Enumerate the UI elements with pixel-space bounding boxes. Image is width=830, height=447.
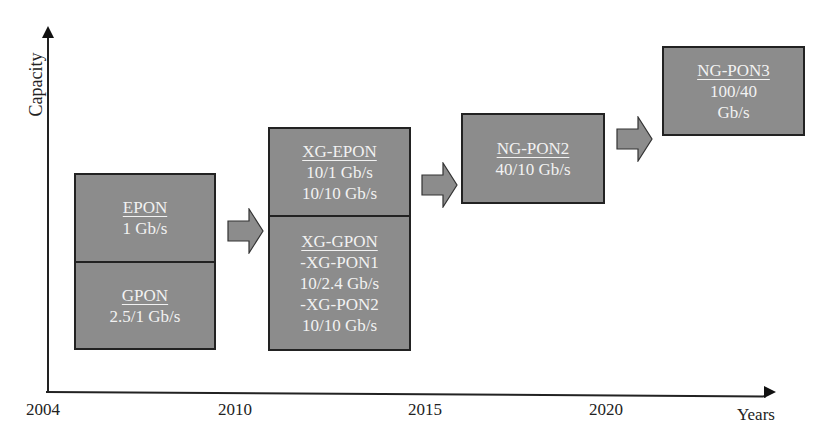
box-title: EPON — [123, 197, 167, 218]
box-line: -XG-PON2 — [300, 294, 378, 315]
box-gpon: GPON 2.5/1 Gb/s — [74, 261, 216, 350]
box-epon: EPON 1 Gb/s — [74, 173, 216, 263]
box-title: XG-GPON — [301, 231, 378, 252]
y-axis-arrowhead-icon — [42, 26, 54, 38]
box-line: 10/2.4 Gb/s — [300, 273, 379, 294]
box-title: NG-PON3 — [697, 60, 770, 81]
x-axis-arrowhead-icon — [764, 386, 776, 398]
y-axis — [47, 36, 49, 392]
box-title: NG-PON2 — [497, 138, 570, 159]
y-axis-label: Capacity — [26, 45, 47, 125]
box-line: 2.5/1 Gb/s — [110, 306, 181, 327]
box-xg-epon: XG-EPON 10/1 Gb/s 10/10 Gb/s — [268, 127, 411, 217]
arrow-right-icon — [421, 162, 459, 208]
box-line: 1 Gb/s — [123, 218, 168, 239]
x-tick-2010: 2010 — [218, 400, 252, 420]
box-line: 10/1 Gb/s — [306, 162, 373, 183]
box-line: 100/40 — [710, 81, 757, 102]
box-title: GPON — [122, 285, 168, 306]
box-xg-gpon: XG-GPON -XG-PON1 10/2.4 Gb/s -XG-PON2 10… — [268, 215, 411, 351]
box-line: 40/10 Gb/s — [495, 159, 570, 180]
x-axis — [46, 391, 766, 397]
arrow-right-icon — [616, 116, 654, 162]
box-line: 10/10 Gb/s — [302, 183, 377, 204]
box-line: 10/10 Gb/s — [302, 315, 377, 336]
arrow-right-icon — [227, 208, 265, 254]
x-axis-label: Years — [737, 405, 775, 425]
x-tick-2015: 2015 — [408, 400, 442, 420]
box-ng-pon2: NG-PON2 40/10 Gb/s — [461, 113, 605, 204]
x-tick-2020: 2020 — [589, 400, 623, 420]
box-line: -XG-PON1 — [300, 252, 378, 273]
box-line: Gb/s — [717, 102, 749, 123]
box-ng-pon3: NG-PON3 100/40 Gb/s — [662, 46, 805, 136]
box-title: XG-EPON — [302, 141, 377, 162]
x-tick-2004: 2004 — [26, 400, 60, 420]
